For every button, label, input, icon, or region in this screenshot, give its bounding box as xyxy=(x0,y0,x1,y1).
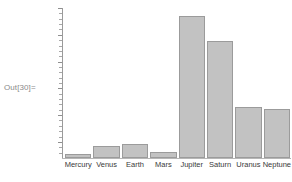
out-prompt-label: Out[30]= xyxy=(4,83,36,93)
y-axis-major-tick xyxy=(58,8,62,9)
bar-mercury[interactable] xyxy=(65,154,91,158)
y-axis-major-tick xyxy=(58,35,62,36)
bar-slot xyxy=(263,8,291,158)
x-label-jupiter: Jupiter xyxy=(178,160,206,170)
bar-jupiter[interactable] xyxy=(179,16,205,158)
y-axis-minor-tick xyxy=(59,110,62,111)
bar-slot xyxy=(178,8,206,158)
x-label-uranus: Uranus xyxy=(234,160,262,170)
y-axis-minor-tick xyxy=(59,72,62,73)
y-axis-major-tick xyxy=(58,62,62,63)
y-axis-minor-tick xyxy=(59,94,62,95)
y-axis-minor-tick xyxy=(59,67,62,68)
y-axis-minor-tick xyxy=(59,120,62,121)
notebook-output-cell: Out[30]= MercuryVenusEarthMarsJupiterSat… xyxy=(0,0,292,182)
y-axis-major-tick xyxy=(58,88,62,89)
bar-slot xyxy=(121,8,149,158)
bar-earth[interactable] xyxy=(122,144,148,158)
bar-slot xyxy=(92,8,120,158)
x-label-earth: Earth xyxy=(121,160,149,170)
y-axis-minor-tick xyxy=(59,126,62,127)
bar-chart-graphic[interactable] xyxy=(62,8,291,158)
x-label-saturn: Saturn xyxy=(206,160,234,170)
bar-venus[interactable] xyxy=(93,146,119,158)
bar-neptune[interactable] xyxy=(264,109,290,158)
bar-saturn[interactable] xyxy=(207,41,233,158)
y-axis-minor-tick xyxy=(59,13,62,14)
y-axis-minor-tick xyxy=(59,56,62,57)
y-axis-minor-tick xyxy=(59,40,62,41)
y-axis-line xyxy=(62,8,63,158)
y-axis-minor-tick xyxy=(59,147,62,148)
y-axis-major-tick xyxy=(58,115,62,116)
bar-uranus[interactable] xyxy=(235,107,261,158)
x-label-mercury: Mercury xyxy=(64,160,92,170)
x-label-mars: Mars xyxy=(149,160,177,170)
y-axis-minor-tick xyxy=(59,104,62,105)
y-axis-minor-tick xyxy=(59,153,62,154)
bar-series xyxy=(64,8,291,158)
y-axis-minor-tick xyxy=(59,99,62,100)
bar-slot xyxy=(64,8,92,158)
y-axis-minor-tick xyxy=(59,29,62,30)
x-axis-labels: MercuryVenusEarthMarsJupiterSaturnUranus… xyxy=(64,160,291,172)
x-axis-baseline xyxy=(62,158,291,159)
y-axis-minor-tick xyxy=(59,51,62,52)
y-axis-minor-tick xyxy=(59,19,62,20)
y-axis-minor-tick xyxy=(59,78,62,79)
bar-slot xyxy=(149,8,177,158)
y-axis-minor-tick xyxy=(59,46,62,47)
y-axis-major-tick xyxy=(58,142,62,143)
y-axis-minor-tick xyxy=(59,83,62,84)
y-axis-minor-tick xyxy=(59,137,62,138)
x-label-venus: Venus xyxy=(92,160,120,170)
bar-mars[interactable] xyxy=(150,152,176,158)
y-axis-minor-tick xyxy=(59,131,62,132)
bar-slot xyxy=(206,8,234,158)
y-axis-minor-tick xyxy=(59,24,62,25)
x-label-neptune: Neptune xyxy=(263,160,291,170)
bar-slot xyxy=(234,8,262,158)
